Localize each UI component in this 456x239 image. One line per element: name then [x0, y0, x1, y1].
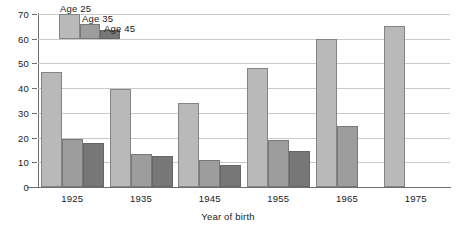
- y-tick-label: 30: [18, 107, 29, 118]
- bar-group: [247, 14, 310, 187]
- bar: [178, 103, 199, 187]
- y-tick-mark: [32, 187, 37, 188]
- legend-swatch-age-25: [59, 14, 80, 39]
- y-tick-label: 50: [18, 58, 29, 69]
- bar: [152, 156, 173, 187]
- legend-label-age-45: Age 45: [104, 23, 135, 34]
- gridline: [38, 187, 450, 188]
- bar: [83, 143, 104, 187]
- y-tick-mark: [32, 63, 37, 64]
- bar-group: [316, 14, 379, 187]
- bar: [384, 26, 405, 187]
- y-tick-mark: [32, 138, 37, 139]
- y-tick-mark: [32, 113, 37, 114]
- bar: [289, 151, 310, 187]
- x-tick-label: 1975: [386, 193, 446, 204]
- x-tick-label: 1955: [248, 193, 308, 204]
- y-tick-mark: [32, 14, 37, 15]
- y-tick-mark: [32, 88, 37, 89]
- bar: [268, 140, 289, 187]
- bar: [131, 154, 152, 187]
- x-tick-label: 1945: [180, 193, 240, 204]
- chart-legend: Age 25 Age 35 Age 45: [59, 2, 189, 47]
- y-tick-label: 40: [18, 83, 29, 94]
- x-tick-label: 1935: [111, 193, 171, 204]
- x-tick-label: 1965: [317, 193, 377, 204]
- bar: [199, 160, 220, 187]
- y-tick-label: 0: [24, 182, 29, 193]
- bar: [110, 89, 131, 187]
- x-tick-label: 1925: [42, 193, 102, 204]
- y-tick-label: 60: [18, 33, 29, 44]
- y-tick-label: 70: [18, 9, 29, 20]
- y-tick-label: 20: [18, 132, 29, 143]
- bar: [62, 139, 83, 187]
- bar: [220, 165, 241, 187]
- legend-swatch-age-35: [80, 24, 100, 39]
- chart-screenshot: 010203040506070 192519351945195519651975…: [0, 0, 456, 239]
- bar-group: [384, 14, 447, 187]
- y-tick-label: 10: [18, 157, 29, 168]
- y-tick-mark: [32, 39, 37, 40]
- bar: [41, 72, 62, 187]
- x-axis-title: Year of birth: [0, 211, 456, 222]
- bar: [316, 39, 337, 187]
- y-tick-mark: [32, 162, 37, 163]
- bar: [247, 68, 268, 187]
- bar: [337, 126, 358, 187]
